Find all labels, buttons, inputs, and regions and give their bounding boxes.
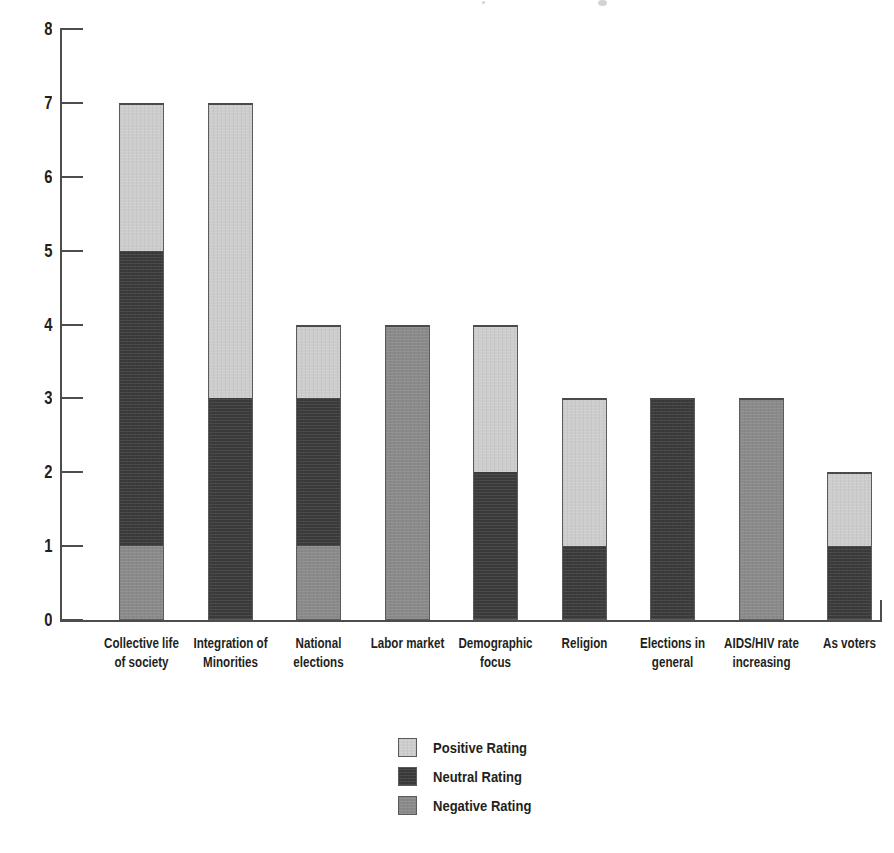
bar-segment[interactable] — [296, 325, 341, 399]
bar-group[interactable] — [827, 29, 872, 620]
y-axis-tick-label-wrap: 4 — [22, 315, 52, 335]
bar-segment[interactable] — [650, 398, 695, 620]
bar-segment[interactable] — [473, 325, 518, 473]
neutral-swatch-icon — [398, 767, 417, 786]
positive-swatch-icon — [398, 738, 417, 757]
y-axis-tick-label-wrap: 7 — [22, 93, 52, 113]
bar-stack[interactable] — [208, 103, 253, 620]
bar-stack[interactable] — [650, 398, 695, 620]
bar-segment[interactable] — [119, 103, 164, 251]
bar-group[interactable] — [650, 29, 695, 620]
bar-group[interactable] — [739, 29, 784, 620]
y-axis-tick-label-wrap: 6 — [22, 167, 52, 187]
bar-segment[interactable] — [385, 325, 430, 621]
legend-item: Positive Rating — [398, 733, 550, 762]
bar-segment[interactable] — [827, 472, 872, 546]
bar-segment[interactable] — [827, 546, 872, 620]
category-label-line: increasing — [707, 653, 815, 672]
plot-area — [61, 29, 881, 620]
scan-artifact — [470, 0, 660, 8]
y-axis-tick-label: 3 — [32, 388, 52, 407]
y-axis-tick-label-wrap: 2 — [22, 462, 52, 482]
bar-segment[interactable] — [296, 546, 341, 620]
y-axis-tick-label-wrap: 8 — [22, 19, 52, 39]
category-label-line: elections — [265, 653, 373, 672]
y-axis-tick-label: 0 — [32, 610, 52, 629]
bar-stack[interactable] — [473, 325, 518, 621]
category-label-line: focus — [442, 653, 550, 672]
bar-segment[interactable] — [119, 251, 164, 547]
y-axis-tick-label-wrap: 0 — [22, 610, 52, 630]
y-axis-tick-label-wrap: 1 — [22, 536, 52, 556]
y-axis-tick-label-wrap: 5 — [22, 241, 52, 261]
legend-item: Neutral Rating — [398, 762, 550, 791]
x-axis-category-label: As voters — [796, 634, 894, 653]
bar-segment[interactable] — [473, 472, 518, 620]
bar-segment[interactable] — [562, 398, 607, 546]
y-axis-tick-label: 5 — [32, 241, 52, 260]
bar-stack[interactable] — [385, 325, 430, 621]
chart-legend: Positive Rating Neutral Rating Negative … — [398, 733, 550, 820]
bar-group[interactable] — [208, 29, 253, 620]
stacked-bar-chart: 876543210 Collective lifeof societyInteg… — [0, 0, 894, 853]
legend-item-label: Negative Rating — [433, 797, 531, 815]
legend-item: Negative Rating — [398, 791, 550, 820]
bar-segment[interactable] — [119, 546, 164, 620]
y-axis-tick-label-wrap: 3 — [22, 388, 52, 408]
bar-segment[interactable] — [562, 546, 607, 620]
bar-group[interactable] — [562, 29, 607, 620]
y-axis-tick-label: 2 — [32, 462, 52, 481]
y-axis-tick-label: 4 — [32, 315, 52, 334]
bar-stack[interactable] — [562, 398, 607, 620]
bar-stack[interactable] — [296, 325, 341, 621]
category-label-line: As voters — [796, 634, 894, 653]
bar-group[interactable] — [473, 29, 518, 620]
bar-stack[interactable] — [739, 398, 784, 620]
y-axis-tick-label: 1 — [32, 536, 52, 555]
bar-stack[interactable] — [827, 472, 872, 620]
y-axis-tick-label: 8 — [32, 19, 52, 38]
bar-segment[interactable] — [208, 103, 253, 399]
x-axis-line — [60, 620, 882, 622]
bar-segment[interactable] — [739, 398, 784, 620]
legend-item-label: Positive Rating — [433, 739, 527, 757]
bar-segment[interactable] — [208, 398, 253, 620]
legend-item-label: Neutral Rating — [433, 768, 522, 786]
negative-swatch-icon — [398, 796, 417, 815]
bar-stack[interactable] — [119, 103, 164, 620]
y-axis-tick-label: 6 — [32, 167, 52, 186]
bar-group[interactable] — [296, 29, 341, 620]
bar-segment[interactable] — [296, 398, 341, 546]
y-axis-tick-label: 7 — [32, 93, 52, 112]
bar-group[interactable] — [385, 29, 430, 620]
bar-group[interactable] — [119, 29, 164, 620]
